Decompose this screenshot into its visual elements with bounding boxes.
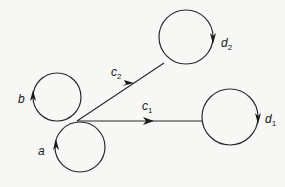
label-c1: c1: [142, 99, 153, 115]
arrow-c2-icon: [122, 80, 134, 86]
loop-a: [55, 122, 105, 172]
loop-d2: [159, 10, 213, 64]
label-d1: d1: [265, 112, 277, 128]
label-c2: c2: [111, 65, 122, 81]
arrow-a-icon: [53, 139, 59, 150]
label-d2: d2: [221, 36, 233, 52]
loop-d1: [202, 89, 258, 145]
loop-diagram: b a c2 c1 d2 d1: [0, 0, 285, 187]
label-a: a: [38, 144, 45, 158]
label-b: b: [18, 92, 25, 106]
loop-b: [33, 73, 81, 121]
